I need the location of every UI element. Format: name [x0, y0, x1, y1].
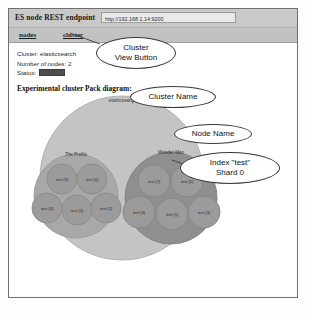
callout-index-shard: Index "test" Shard 0: [180, 152, 280, 184]
callout-cluster-name-line1: Cluster Name: [149, 92, 198, 102]
leader-cluster-button: [70, 33, 100, 44]
callout-cluster-view-button-line1: Cluster: [123, 43, 148, 53]
callout-node-name-line1: Node Name: [192, 129, 235, 139]
callout-cluster-view-button-line2: View Button: [115, 53, 158, 63]
screenshot-root: ES node REST endpoint http://192.168.1.1…: [0, 0, 312, 314]
callout-cluster-view-button: Cluster View Button: [96, 37, 176, 69]
callout-cluster-name: Cluster Name: [130, 86, 216, 108]
callout-index-shard-line1: Index "test": [210, 158, 250, 168]
callout-node-name: Node Name: [174, 124, 252, 144]
callout-index-shard-line2: Shard 0: [216, 168, 244, 178]
